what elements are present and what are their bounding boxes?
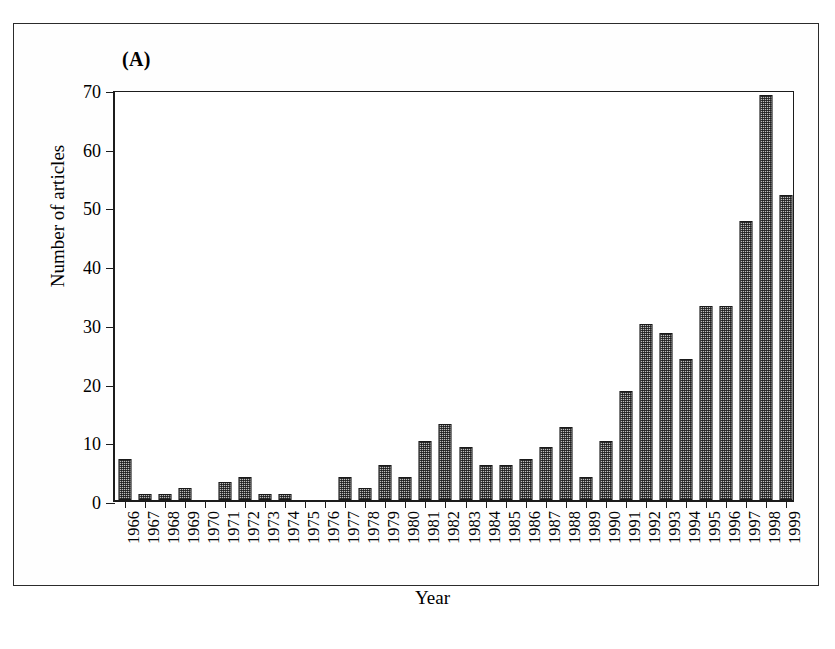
bar: [559, 427, 572, 500]
x-axis-tick: [145, 500, 146, 508]
bar: [639, 324, 652, 500]
x-axis-tick: [786, 500, 787, 508]
bar-slot: 1967: [135, 92, 155, 500]
bar-slot: 1998: [756, 92, 776, 500]
bar-slot: 1994: [676, 92, 696, 500]
y-axis-tick-label: 20: [83, 376, 101, 396]
y-axis-tick-label: 40: [83, 258, 101, 278]
bar: [579, 477, 592, 500]
bar: [219, 482, 232, 500]
x-axis-tick: [165, 500, 166, 508]
bar-slot: 1999: [776, 92, 796, 500]
bar-slot: 1995: [696, 92, 716, 500]
x-axis-tick: [425, 500, 426, 508]
x-axis-tick-label: 1982: [445, 511, 462, 544]
x-axis-tick: [626, 500, 627, 508]
x-axis-tick-label: 1977: [345, 511, 362, 544]
x-axis-tick-label: 1993: [666, 511, 683, 544]
bar-slot: 1969: [175, 92, 195, 500]
x-axis-tick-label: 1980: [405, 511, 422, 544]
bar-slot: 1983: [456, 92, 476, 500]
bar: [339, 477, 352, 500]
bar-slot: 1988: [556, 92, 576, 500]
x-axis-tick: [686, 500, 687, 508]
bar-slot: 1982: [435, 92, 455, 500]
x-axis-tick-label: 1990: [606, 511, 623, 544]
x-axis-tick-label: 1989: [586, 511, 603, 544]
bar-slot: 1971: [215, 92, 235, 500]
bar-slot: 1968: [155, 92, 175, 500]
y-axis-label: Number of articles: [47, 96, 69, 336]
bar-slot: 1975: [295, 92, 315, 500]
x-axis-tick-label: 1970: [205, 511, 222, 544]
x-axis-tick-label: 1969: [185, 511, 202, 544]
y-axis-tick: 0: [106, 503, 115, 504]
panel-label: (A): [122, 48, 151, 71]
bar-slot: 1986: [516, 92, 536, 500]
x-axis-tick: [305, 500, 306, 508]
x-axis-tick: [325, 500, 326, 508]
bar: [719, 306, 732, 500]
bar: [459, 447, 472, 500]
bar-slot: 1993: [656, 92, 676, 500]
x-axis-tick-label: 1966: [125, 511, 142, 544]
y-axis-tick-label: 70: [83, 82, 101, 102]
x-axis-tick-label: 1984: [486, 511, 503, 544]
x-axis-tick-label: 1968: [165, 511, 182, 544]
x-axis-tick: [586, 500, 587, 508]
bar-slot: 1981: [415, 92, 435, 500]
x-axis-tick-label: 1991: [626, 511, 643, 544]
bar-slot: 1990: [596, 92, 616, 500]
bar: [599, 441, 612, 500]
x-axis-tick-label: 1985: [506, 511, 523, 544]
bar: [379, 465, 392, 500]
bar-slot: 1985: [496, 92, 516, 500]
y-axis-tick: 70: [106, 92, 115, 93]
x-axis-tick-label: 1967: [145, 511, 162, 544]
x-axis-tick-label: 1998: [766, 511, 783, 544]
bar: [759, 95, 772, 500]
x-axis-tick-label: 1988: [566, 511, 583, 544]
bar-slot: 1989: [576, 92, 596, 500]
bar-slot: 1972: [235, 92, 255, 500]
x-axis-tick: [125, 500, 126, 508]
x-axis-tick: [205, 500, 206, 508]
bar: [679, 359, 692, 500]
bar-slot: 1980: [395, 92, 415, 500]
y-axis-tick-label: 60: [83, 141, 101, 161]
x-axis-label: Year: [0, 587, 835, 609]
bar: [479, 465, 492, 500]
x-axis-tick: [225, 500, 226, 508]
bar-slot: 1987: [536, 92, 556, 500]
x-axis-tick: [706, 500, 707, 508]
y-axis-tick: 40: [106, 268, 115, 269]
bar-slot: 1996: [716, 92, 736, 500]
bar: [239, 477, 252, 500]
y-axis-tick-label: 30: [83, 317, 101, 337]
x-axis-tick: [265, 500, 266, 508]
x-axis-tick-label: 1999: [786, 511, 803, 544]
x-axis-tick: [185, 500, 186, 508]
x-axis-tick: [746, 500, 747, 508]
x-axis-tick-label: 1996: [726, 511, 743, 544]
x-axis-tick: [245, 500, 246, 508]
x-axis-tick-label: 1986: [526, 511, 543, 544]
bar: [419, 441, 432, 500]
x-axis-tick: [385, 500, 386, 508]
x-axis-tick-label: 1997: [746, 511, 763, 544]
x-axis-tick-label: 1994: [686, 511, 703, 544]
figure-root: (A) General Research (461 articles) Numb…: [0, 0, 835, 649]
x-axis-tick-label: 1983: [466, 511, 483, 544]
bar: [779, 195, 792, 500]
x-axis-tick: [345, 500, 346, 508]
x-axis-tick-label: 1978: [365, 511, 382, 544]
bar-slot: 1979: [375, 92, 395, 500]
x-axis-tick: [506, 500, 507, 508]
x-axis-tick: [365, 500, 366, 508]
x-axis-tick-label: 1992: [646, 511, 663, 544]
bar: [179, 488, 192, 500]
bar-series: 1966196719681969197019711972197319741975…: [115, 92, 793, 500]
y-axis-tick: 50: [106, 209, 115, 210]
x-axis-tick: [445, 500, 446, 508]
bar-slot: 1992: [636, 92, 656, 500]
